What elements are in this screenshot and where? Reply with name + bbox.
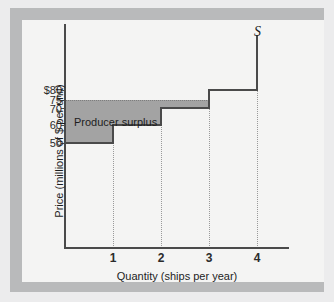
dropline-q4 <box>257 90 259 248</box>
supply-step-70 <box>160 107 210 109</box>
supply-riser-q2 <box>160 107 162 126</box>
dropline-q3 <box>209 108 211 248</box>
supply-step-80 <box>208 89 258 91</box>
y-axis-title: Price (millions of $ per unit) <box>53 61 65 241</box>
dropline-q2 <box>161 125 163 248</box>
y-axis-title-host: Price (millions of $ per unit) <box>32 0 46 302</box>
supply-riser-q4 <box>256 35 258 91</box>
producer-surplus-annotation: Producer surplus <box>74 116 157 128</box>
x-tick-label-1: 1 <box>101 252 125 265</box>
x-tick-label-2: 2 <box>149 252 173 265</box>
market-price-dotted-line <box>66 100 209 102</box>
chart-plot-area: $80 75 70 60 50 1 2 3 4 Producer surplus… <box>0 0 334 302</box>
supply-step-50 <box>66 142 114 144</box>
figure-container: $80 75 70 60 50 1 2 3 4 Producer surplus… <box>0 0 334 302</box>
x-axis-title: Quantity (ships per year) <box>64 270 290 282</box>
supply-riser-q3 <box>208 89 210 109</box>
x-axis-line <box>64 247 289 249</box>
x-tick-label-4: 4 <box>245 252 269 265</box>
dropline-q1 <box>113 143 115 248</box>
x-tick-label-3: 3 <box>197 252 221 265</box>
supply-curve-label: S <box>254 24 261 40</box>
